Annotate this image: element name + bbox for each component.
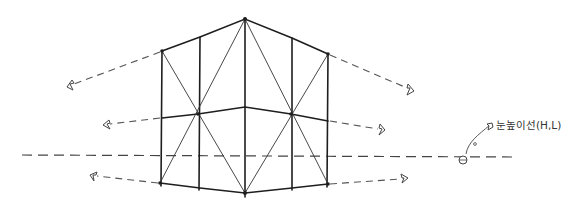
vanishing-lines-right	[330, 55, 407, 184]
vanishing-lines-left	[74, 52, 160, 183]
eye-level-marker	[459, 123, 493, 164]
diagonals-right-face	[245, 19, 328, 193]
eye-level-label: 눈높이선(H,L)	[496, 117, 561, 132]
diagonals-left-face	[160, 19, 245, 193]
arrow-icon	[67, 80, 110, 181]
perspective-diagram	[0, 0, 570, 210]
arrow-icon	[379, 84, 414, 183]
